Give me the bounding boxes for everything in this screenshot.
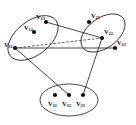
vertex-label-sub-v31: 31	[53, 103, 57, 108]
vertex-label-base-v23: V	[117, 39, 122, 46]
vertex-v23	[113, 46, 117, 50]
vertex-label-base-v31: V	[48, 100, 53, 107]
vertex-v21	[87, 20, 91, 24]
vertex-v22	[100, 36, 104, 40]
vertex-label-sub-v22: 22	[109, 31, 113, 36]
vertex-label-base-v32: V	[62, 100, 67, 107]
edge-v11-v32	[15, 48, 69, 95]
vertex-label-base-v33: V	[76, 100, 81, 107]
edge-v13-v22	[46, 22, 102, 38]
edge-v11-v22	[15, 38, 102, 48]
vertex-label-v13: V13	[36, 14, 45, 21]
vertex-label-base-v11: V	[4, 41, 9, 48]
vertex-label-sub-v21: 21	[96, 15, 100, 20]
vertex-v11	[13, 46, 17, 50]
vertex-label-v11: V11	[4, 42, 13, 49]
vertex-label-sub-v23: 23	[122, 42, 126, 47]
graph-diagram-canvas: V11V12V13V21V22V23V31V32V33	[0, 0, 136, 125]
vertex-label-base-v12: V	[24, 24, 29, 31]
vertex-label-base-v21: V	[91, 12, 96, 19]
vertex-label-sub-v12: 12	[29, 27, 33, 32]
vertex-label-v31: V31	[48, 101, 57, 108]
vertex-v31	[53, 93, 57, 97]
vertex-label-base-v13: V	[36, 13, 41, 20]
vertex-label-v21: V21	[91, 13, 100, 20]
edge-v22-v33	[83, 38, 102, 95]
vertex-label-v23: V23	[117, 40, 126, 47]
vertex-label-v32: V32	[62, 101, 71, 108]
vertex-v32	[67, 93, 71, 97]
left-ellipse	[0, 7, 66, 70]
vertex-label-sub-v33: 33	[81, 103, 85, 108]
vertex-label-sub-v11: 11	[9, 44, 13, 49]
vertex-label-base-v22: V	[104, 28, 109, 35]
vertex-label-v22: V22	[104, 29, 113, 36]
vertex-label-sub-v32: 32	[67, 103, 71, 108]
vertex-label-v12: V12	[24, 25, 33, 32]
vertex-v33	[81, 93, 85, 97]
vertex-label-v33: V33	[76, 101, 85, 108]
right-ellipse	[74, 6, 132, 60]
vertex-label-sub-v13: 13	[41, 16, 45, 21]
